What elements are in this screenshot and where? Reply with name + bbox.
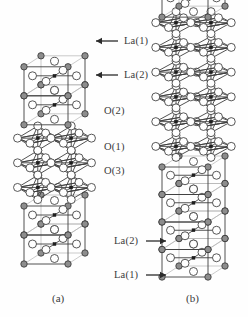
atom-m [70, 186, 73, 189]
atom-la [222, 153, 228, 159]
atom-o [152, 118, 160, 126]
label-o1: O(1) [104, 142, 125, 153]
atom-o [180, 39, 188, 47]
atom-m [53, 243, 56, 246]
atom-o [172, 30, 180, 38]
atom-la [222, 208, 228, 214]
atom-m [192, 174, 195, 177]
atom-m [175, 95, 178, 98]
atom-o [167, 199, 175, 207]
atom-o [165, 122, 173, 130]
atom-o [67, 196, 75, 204]
atom-o [42, 246, 50, 254]
crystal-structure-figure: La(1)La(2)O(2)O(1)O(3)(a)La(2)La(1)(b) [0, 0, 248, 317]
atom-m [210, 21, 213, 24]
atom-la [65, 93, 71, 99]
atom-o [172, 104, 180, 112]
atom-o [34, 196, 42, 204]
atom-la [21, 122, 27, 128]
atom-la [222, 263, 228, 269]
atom-m [53, 103, 56, 106]
label-o2: O(2) [104, 106, 125, 117]
panel-a-structure [14, 53, 96, 268]
panel-caption-a: (a) [52, 293, 64, 304]
atom-o [152, 142, 160, 150]
atom-o [75, 154, 83, 162]
atom-la [82, 53, 88, 59]
atom-o [29, 240, 37, 248]
atom-la [159, 246, 165, 252]
atom-o [214, 63, 222, 71]
atom-m [210, 120, 213, 123]
atom-o [200, 73, 208, 81]
atom-m [36, 137, 39, 140]
atom-o [190, 240, 198, 248]
atom-o [207, 104, 215, 112]
atom-la [222, 180, 228, 186]
atom-o [190, 213, 198, 221]
atom-o [42, 217, 50, 225]
atom-o [187, 118, 195, 126]
atom-o [165, 48, 173, 56]
atom-o [34, 171, 42, 179]
atom-o [59, 139, 67, 147]
atom-o [180, 14, 188, 22]
atom-la [38, 53, 44, 59]
atom-o [200, 122, 208, 130]
atom-o [73, 211, 81, 219]
leader-arrow-head [96, 38, 102, 44]
atom-m [210, 71, 213, 74]
atom-la [65, 232, 71, 238]
atom-o [14, 183, 22, 191]
atom-o [172, 129, 180, 137]
atom-o [190, 185, 198, 193]
atom-o [73, 240, 81, 248]
atom-la [159, 219, 165, 225]
atom-m [192, 256, 195, 259]
atom-m [175, 120, 178, 123]
atom-o [200, 23, 208, 31]
atom-m [70, 137, 73, 140]
atom-m [192, 229, 195, 232]
atom-o [227, 93, 235, 101]
atom-o [200, 98, 208, 106]
atom-m [175, 46, 178, 49]
atom-o [26, 189, 34, 197]
atom-o [51, 115, 59, 123]
atom-o [87, 183, 95, 191]
leader-arrow-head [96, 72, 102, 78]
atom-o [207, 129, 215, 137]
label-la2: La(2) [114, 236, 138, 247]
atom-m [175, 145, 178, 148]
atom-o [227, 19, 235, 27]
atom-o [213, 0, 221, 2]
atom-o [181, 204, 189, 212]
atom-o [187, 43, 195, 51]
atom-o [190, 8, 198, 16]
label-la1: La(1) [114, 270, 138, 281]
atom-o [213, 199, 221, 207]
atom-o [187, 93, 195, 101]
atom-m [36, 161, 39, 164]
atom-o [59, 189, 67, 197]
atom-o [75, 178, 83, 186]
atom-o [181, 177, 189, 185]
atom-o [214, 39, 222, 47]
label-la1: La(1) [124, 36, 148, 47]
atom-o [207, 54, 215, 62]
atom-m [53, 214, 56, 217]
atom-o [227, 43, 235, 51]
atom-la [159, 191, 165, 197]
atom-o [59, 164, 67, 172]
atom-m [210, 95, 213, 98]
atom-la [65, 261, 71, 267]
atom-o [180, 88, 188, 96]
atom-o [172, 153, 180, 161]
atom-o [73, 72, 81, 80]
panel-b-structure [152, 0, 235, 280]
atom-o [180, 138, 188, 146]
atom-o [75, 129, 83, 137]
atom-la [205, 274, 211, 280]
atom-la [21, 261, 27, 267]
atom-o [214, 113, 222, 121]
